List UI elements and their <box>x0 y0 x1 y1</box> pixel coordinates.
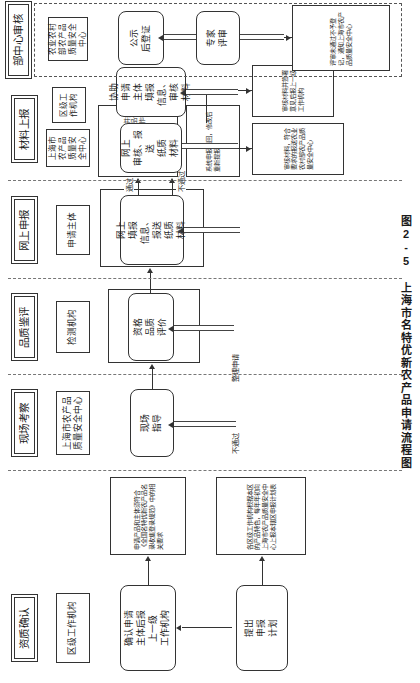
stage-title-label: 材料上报 <box>14 98 35 160</box>
note-text: 申请产品和主体须符合《全国名特优新农产品名录收集登录规范》中的相关要求 <box>133 482 164 550</box>
arrow-right <box>259 556 265 561</box>
node-label: 专家 评审 <box>206 29 230 47</box>
org-label: 上海市农产品质量安全中心 <box>48 133 87 163</box>
arrow-up <box>178 228 183 234</box>
node-label: 公示 后登证 <box>129 25 153 52</box>
stage-title-label: 部中心审核 <box>8 4 29 77</box>
org-box-qualification: 区级工作机构 <box>56 593 90 663</box>
diagram-canvas: 资质确认 区级工作机构 确认申请 主体后报 上一级 工作机构 提出 申报 计划 … <box>0 0 420 683</box>
stage-title-label: 现场考察 <box>14 392 35 454</box>
org-box-applicant: 申请主体 <box>56 205 90 255</box>
node-label: 现场 指导 <box>140 414 164 432</box>
figure-caption-text: 图2-5 上海市名特优新农产品申请流程图 <box>398 215 414 469</box>
connector-assist-to-audit <box>182 143 238 149</box>
arrow-down <box>246 146 251 152</box>
connector-assist-link <box>206 95 207 123</box>
node-expert-review[interactable]: 专家 评审 <box>196 11 240 65</box>
org-box-shanghai-center: 上海市农产品质量安全中心 <box>46 129 90 167</box>
node-label: 资格 品质 评价 <box>133 318 169 336</box>
org-label: 区级工作机构 <box>59 91 79 119</box>
node-online-audit[interactable]: 网上 审核、报送 纸质 材料 <box>120 123 182 173</box>
org-box-district-agency: 区级工作机构 <box>52 87 86 123</box>
connector-stage2-to-stage1 <box>240 34 284 40</box>
connector-branch-fail <box>172 181 173 195</box>
node-label: 网上 审核、报送 纸质 材料 <box>121 128 180 168</box>
stage-title-label: 品质鉴评 <box>14 296 35 358</box>
connector-plan-to-confirm <box>182 627 232 628</box>
org-label: 区级工作机构 <box>67 601 78 655</box>
arrow-down <box>246 88 251 94</box>
stage-title-onsite: 现场考察 <box>14 375 35 471</box>
note-text: 各区级工作机构根据本区的产品特色，每年年初向上海市农产品质量安全中心上报本辖区申… <box>246 482 277 550</box>
arrow-up <box>176 625 181 631</box>
stage-title-quality: 品质鉴评 <box>14 279 35 375</box>
node-confirm-applicant[interactable]: 确认申请 主体后报 上一级 工作机构 <box>120 585 176 671</box>
note-plan-requirement: 各区级工作机构根据本区的产品特色，每年年初向上海市农产品质量安全中心上报本辖区申… <box>216 477 306 555</box>
connector-stage4-to-stage3 <box>184 227 240 233</box>
org-box-quality: 检测机构 <box>56 301 90 353</box>
node-submit-plan[interactable]: 提出 申报 计划 <box>236 585 288 671</box>
org-box-ministry-center: 农业农村部农产品质量安全中心 <box>48 17 88 61</box>
note-audit-pass-forward: 审核材料，符合要求的报送农业农村部农产品质量安全中心 <box>252 123 344 175</box>
note-text: 审核材料，符合要求的报送农业农村部农产品质量安全中心 <box>283 128 314 170</box>
edge-label-onsite-fail: 不通过 <box>230 432 240 455</box>
org-label: 上海市农产品质量安全中心 <box>62 395 84 451</box>
flowchart: 资质确认 区级工作机构 确认申请 主体后报 上一级 工作机构 提出 申报 计划 … <box>0 0 420 683</box>
stage-title-material-report: 材料上报 <box>14 77 35 181</box>
stage-title-label: 资质确认 <box>14 597 35 659</box>
stage-title-qualification: 资质确认 <box>14 575 35 681</box>
connector-branch-pass <box>138 181 139 195</box>
org-label: 农业农村部农产品质量安全中心 <box>48 21 87 57</box>
note-review-failed: 评审未通过不予登记，通知上海市农产品质量安全中心 <box>292 5 390 71</box>
arrow-right <box>145 556 151 561</box>
arrow-up <box>168 326 173 332</box>
org-label: 检测机构 <box>67 309 78 345</box>
org-box-onsite: 上海市农产品质量安全中心 <box>56 391 90 455</box>
arrow-down <box>286 35 291 41</box>
stage-title-ministry-review: 部中心审核 <box>8 1 29 79</box>
node-label: 网上 填报 信息、 报送 纸质 材料 <box>116 217 187 244</box>
node-fill-submit[interactable]: 网上 填报 信息、 报送 纸质 材料 <box>120 195 184 265</box>
figure-caption: 图2-5 上海市名特优新农产品申请流程图 <box>395 0 417 683</box>
connector-stage3-to-stage2 <box>186 89 238 95</box>
connector-stage5-to-stage4 <box>174 325 234 331</box>
note-text: 评审未通过不予登记，通知上海市农产品质量安全中心 <box>329 10 352 66</box>
node-label: 确认申请 主体后报 上一级 工作机构 <box>124 610 172 646</box>
node-label: 提出 申报 计划 <box>244 619 280 637</box>
edge-label-text: 不通过 <box>231 433 240 454</box>
connector-expert-to-publicity <box>164 34 196 40</box>
note-applicant-requirement: 申请产品和主体须符合《全国名特优新农产品名录收集登录规范》中的相关要求 <box>110 477 186 555</box>
org-label: 申请主体 <box>67 212 78 248</box>
arrow-up <box>180 90 185 96</box>
arrow-up <box>168 422 173 428</box>
arrow-up <box>158 35 163 41</box>
stage-title-label: 网上申报 <box>14 199 35 261</box>
stage-title-online-declare: 网上申报 <box>14 181 35 279</box>
connector-plan-to-note <box>262 559 263 585</box>
connector-stage6-to-stage5 <box>174 421 236 427</box>
connector-confirm-to-note <box>148 559 149 585</box>
